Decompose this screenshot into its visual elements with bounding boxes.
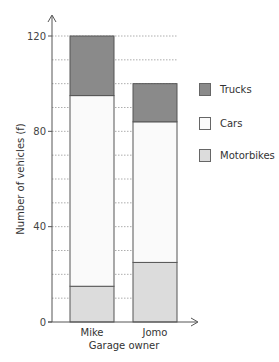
bar-segment-trucks-mike: [70, 36, 114, 96]
cars-swatch-icon: [199, 117, 211, 130]
y-tick-label: 80: [33, 126, 46, 137]
x-category-label: Jomo: [142, 327, 168, 338]
legend-item-trucks: Trucks: [199, 83, 252, 96]
legend-label: Cars: [220, 118, 242, 129]
bar-segment-motorbikes-mike: [70, 286, 114, 322]
bar-segment-motorbikes-jomo: [133, 262, 177, 322]
bar-segment-cars-jomo: [133, 122, 177, 263]
trucks-swatch-icon: [199, 83, 211, 96]
y-tick-label: 40: [33, 221, 46, 232]
bar-segment-trucks-jomo: [133, 84, 177, 122]
y-tick-label: 120: [27, 31, 46, 42]
legend-label: Motorbikes: [220, 150, 275, 161]
y-tick-label: 0: [40, 317, 46, 328]
legend-label: Trucks: [220, 84, 252, 95]
x-category-labels: MikeJomo: [81, 327, 168, 338]
bars: [70, 36, 177, 322]
stacked-bar-chart: 04080120 MikeJomo Garage owner Number of…: [0, 0, 279, 362]
y-axis-title: Number of vehicles (f): [15, 123, 26, 235]
bar-segment-cars-mike: [70, 96, 114, 287]
legend-item-motorbikes: Motorbikes: [199, 149, 275, 162]
y-tick-labels: 04080120: [27, 31, 52, 328]
motorbikes-swatch-icon: [199, 149, 211, 162]
x-category-label: Mike: [81, 327, 104, 338]
legend-item-cars: Cars: [199, 117, 242, 130]
x-axis-title: Garage owner: [89, 340, 161, 351]
